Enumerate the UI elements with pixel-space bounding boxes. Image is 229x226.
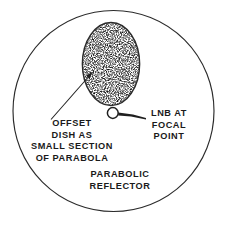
offset-dish-label-line-3: SMALL SECTION xyxy=(10,141,134,153)
parabolic-reflector-label-line-1: PARABOLIC xyxy=(72,169,168,181)
offset-dish-label: OFFSET DISH AS SMALL SECTION OF PARABOLA xyxy=(10,118,134,164)
parabolic-reflector-label: PARABOLIC REFLECTOR xyxy=(72,169,168,192)
parabolic-reflector-label-line-2: REFLECTOR xyxy=(72,181,168,193)
lnb-label-line-2: FOCAL xyxy=(140,120,198,132)
parabolic-reflector-diagram: OFFSET DISH AS SMALL SECTION OF PARABOLA… xyxy=(0,0,229,226)
offset-dish-label-line-2: DISH AS xyxy=(10,130,134,142)
offset-dish-label-line-4: OF PARABOLA xyxy=(10,153,134,165)
offset-dish-label-line-1: OFFSET xyxy=(10,118,134,130)
lnb-label-line-3: POINT xyxy=(140,131,198,143)
lnb-label-line-1: LNB AT xyxy=(140,108,198,120)
lnb-label: LNB AT FOCAL POINT xyxy=(140,108,198,143)
lnb-focal-point-circle xyxy=(107,108,118,119)
